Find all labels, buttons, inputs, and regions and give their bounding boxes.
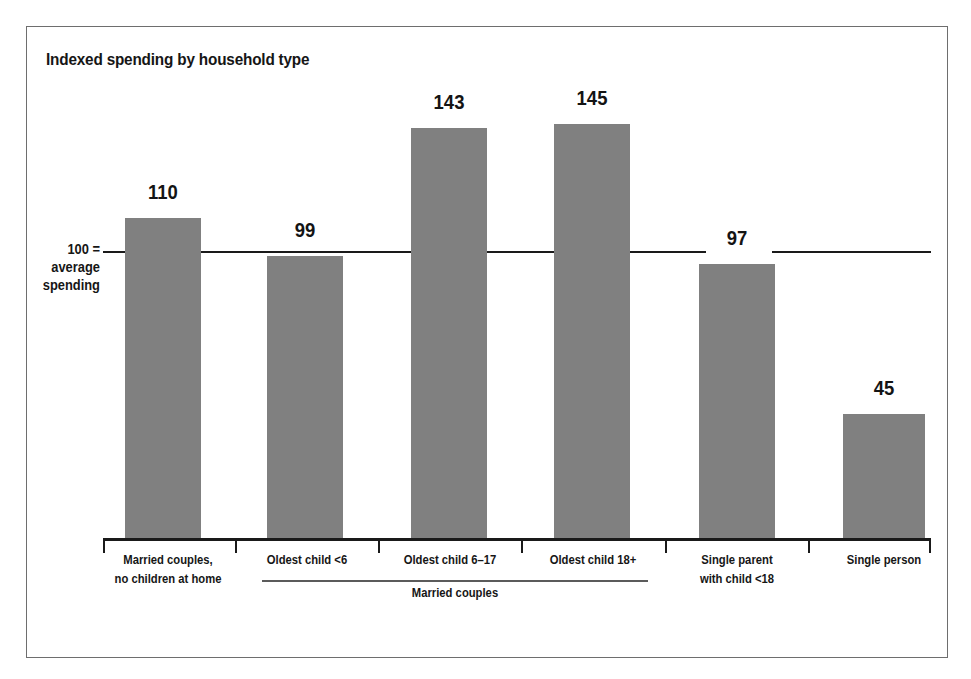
chart-figure: Indexed spending by household type 100 =… [0,0,971,679]
chart-title: Indexed spending by household type [46,50,309,70]
chart-border-frame [26,26,948,658]
